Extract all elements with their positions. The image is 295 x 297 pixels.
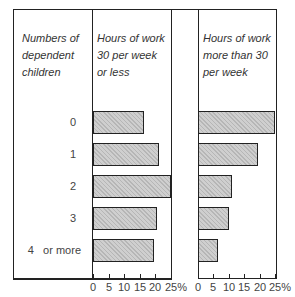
axis-tick xyxy=(244,274,245,278)
left-panel-right-border xyxy=(171,9,172,279)
axis-tick-label: 0 xyxy=(195,281,201,293)
axis-tick xyxy=(109,274,110,278)
axis-tick xyxy=(171,274,172,278)
axis-tick-label: 25% xyxy=(165,281,187,293)
axis-tick xyxy=(93,274,94,278)
axis-tick xyxy=(213,274,214,278)
header-line: children xyxy=(22,64,79,81)
bar-gt30-0 xyxy=(198,111,275,134)
axis-tick-label: 20 xyxy=(254,281,266,293)
axis-tick xyxy=(155,274,156,278)
axis-tick-label: 5 xyxy=(210,281,216,293)
category-label: 2 xyxy=(70,180,76,192)
bar-gt30-3 xyxy=(198,207,229,230)
bar-le30-4 xyxy=(93,239,154,262)
axis-line-bottom xyxy=(13,278,172,279)
top-gap-border xyxy=(171,9,199,10)
header-line: Hours of work xyxy=(203,30,271,47)
bar-le30-1 xyxy=(93,143,159,166)
category-label: 4 or more xyxy=(28,244,81,256)
header-line: Hours of work xyxy=(97,30,165,47)
axis-tick xyxy=(229,274,230,278)
category-label: 1 xyxy=(70,148,76,160)
axis-tick xyxy=(260,274,261,278)
axis-tick-label: 0 xyxy=(90,281,96,293)
axis-tick-label: 15 xyxy=(238,281,250,293)
left-panel-header: Hours of work 30 per week or less xyxy=(97,30,165,81)
bar-gt30-1 xyxy=(198,143,258,166)
header-line: 30 per week xyxy=(97,47,165,64)
header-line: Numbers of xyxy=(22,30,79,47)
axis-tick-label: 5 xyxy=(106,281,112,293)
header-line: per week xyxy=(203,64,271,81)
right-axis-line xyxy=(198,278,276,279)
bar-le30-2 xyxy=(93,175,171,198)
axis-tick xyxy=(198,274,199,278)
axis-tick-label: 10 xyxy=(223,281,235,293)
header-line: dependent xyxy=(22,47,79,64)
header-line: more than 30 xyxy=(203,47,271,64)
bar-le30-0 xyxy=(93,111,144,134)
bar-le30-3 xyxy=(93,207,157,230)
category-label: 3 xyxy=(70,212,76,224)
axis-tick xyxy=(140,274,141,278)
bar-gt30-4 xyxy=(198,239,218,262)
category-label: 0 xyxy=(70,116,76,128)
axis-tick-label: 20 xyxy=(149,281,161,293)
bar-gt30-2 xyxy=(198,175,232,198)
header-line: or less xyxy=(97,64,165,81)
axis-tick-label: 10 xyxy=(118,281,130,293)
axis-tick-label: 25% xyxy=(269,281,291,293)
right-panel-header: Hours of work more than 30 per week xyxy=(203,30,271,81)
axis-tick xyxy=(275,274,276,278)
axis-tick xyxy=(124,274,125,278)
axis-tick-label: 15 xyxy=(134,281,146,293)
categories-header: Numbers of dependent children xyxy=(22,30,79,81)
